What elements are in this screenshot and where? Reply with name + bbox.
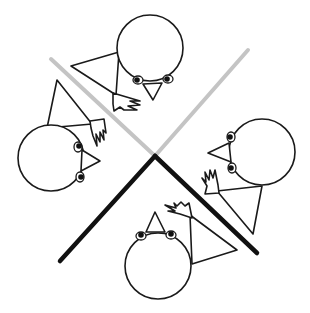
right-figure-pupil-bottom [228,165,234,171]
top-figure-beak [143,83,162,100]
bottom-figure-hand-icon [165,202,192,218]
right-figure-body [217,186,262,234]
bottom-figure-body [190,215,237,264]
illustration-canvas [0,0,310,313]
right-figure-beak [208,143,231,162]
left-figure-pupil-top [76,143,82,149]
top-figure-pupil-right [164,76,170,82]
right-figure-hand-icon [202,170,219,194]
top-figure-pupil-left [134,77,140,83]
top-figure [71,15,183,111]
bottom-figure-head [125,233,191,299]
top-figure-hand-icon [113,93,140,111]
right-figure-head [229,119,295,185]
top-figure-head [117,15,183,81]
top-figure-body [71,52,119,95]
left-figure-pupil-bottom [78,174,84,180]
bottom-figure-beak [146,212,165,232]
left-figure-beak [81,150,100,171]
right-figure-pupil-top [227,134,233,140]
bottom-figure-pupil-left [138,232,144,238]
left-figure-body [47,80,92,128]
left-figure-head [18,125,84,191]
bottom-figure-pupil-right [168,231,174,237]
left-figure-hand-icon [90,119,106,146]
